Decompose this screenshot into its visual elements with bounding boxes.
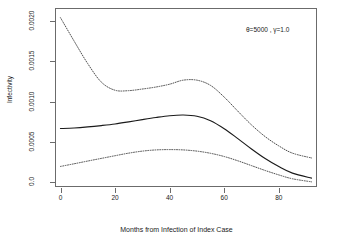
y-axis-tick-label: 0.0	[28, 165, 35, 199]
x-axis-tick-label: 0	[45, 194, 75, 201]
y-axis-tick	[50, 21, 55, 22]
x-axis-title: Months from Infection of Index Case	[0, 226, 353, 233]
x-axis-tick	[170, 188, 171, 193]
y-axis-tick-label: 0.0005	[28, 124, 35, 158]
parameter-annotation: θ=5000 , γ=1.0	[246, 26, 289, 33]
x-axis-tick-label: 20	[100, 194, 130, 201]
x-axis-tick	[61, 188, 62, 193]
y-axis-tick	[50, 61, 55, 62]
y-axis-tick-label: 0.0010	[28, 84, 35, 118]
infectivity-chart-figure: 0.00.00050.00100.00150.0020 020406080 In…	[0, 0, 353, 246]
y-axis-tick-label: 0.0020	[28, 3, 35, 37]
plot-frame	[55, 8, 317, 187]
y-axis-tick-label: 0.0015	[28, 44, 35, 78]
x-axis-tick-label: 80	[264, 194, 294, 201]
y-axis-tick	[50, 102, 55, 103]
x-axis-tick	[279, 188, 280, 193]
y-axis-title: Infectivity	[6, 60, 13, 120]
x-axis-tick-label: 40	[155, 194, 185, 201]
x-axis-tick-label: 60	[209, 194, 239, 201]
x-axis-tick	[115, 188, 116, 193]
y-axis-tick	[50, 142, 55, 143]
x-axis-tick	[224, 188, 225, 193]
y-axis-tick	[50, 182, 55, 183]
